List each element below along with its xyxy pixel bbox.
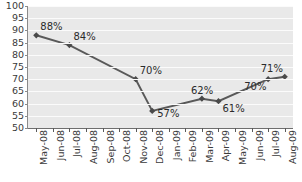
- y-axis-tick: [25, 104, 28, 105]
- y-tick-label: 85: [12, 38, 24, 48]
- x-tick-label: Mar-09: [205, 130, 215, 163]
- data-point-label: 88%: [40, 22, 62, 32]
- x-tick-label: Jan-09: [172, 130, 182, 160]
- data-point-marker: [199, 96, 205, 102]
- plot-area: 88%84%70%57%62%61%70%71%: [27, 6, 293, 129]
- gridline: [28, 79, 293, 80]
- gridline: [28, 30, 293, 31]
- x-tick-label: Jul-08: [72, 130, 82, 157]
- data-point-label: 61%: [222, 104, 244, 114]
- data-point-label: 62%: [191, 86, 213, 96]
- y-tick-label: 100: [6, 1, 24, 11]
- y-tick-label: 50: [12, 123, 24, 133]
- data-point-label: 57%: [157, 109, 179, 119]
- x-tick-label: Oct-08: [122, 130, 132, 162]
- x-tick-label: Nov-08: [139, 130, 149, 164]
- y-tick-label: 70: [12, 74, 24, 84]
- gridline: [28, 18, 293, 19]
- data-point-label: 84%: [73, 32, 95, 42]
- line-chart: 10095908580757065605550 88%84%70%57%62%6…: [0, 0, 302, 182]
- y-axis-tick: [25, 55, 28, 56]
- y-axis-tick: [25, 43, 28, 44]
- gridline: [28, 6, 293, 7]
- y-axis-tick: [25, 6, 28, 7]
- y-tick-label: 65: [12, 87, 24, 97]
- y-axis-tick: [25, 18, 28, 19]
- gridline: [28, 55, 293, 56]
- y-tick-label: 75: [12, 62, 24, 72]
- gridline: [28, 43, 293, 44]
- data-point-label: 70%: [140, 66, 162, 76]
- y-axis-tick: [25, 67, 28, 68]
- y-tick-label: 55: [12, 111, 24, 121]
- x-tick-label: Jun-09: [255, 130, 265, 160]
- x-tick-label: Aug-09: [288, 130, 298, 164]
- gridline: [28, 104, 293, 105]
- x-tick-label: Feb-09: [188, 130, 198, 162]
- x-tick-label: Aug-08: [89, 130, 99, 164]
- x-tick-label: Jun-08: [56, 130, 66, 160]
- x-tick-label: Apr-09: [221, 130, 231, 161]
- y-tick-label: 60: [12, 99, 24, 109]
- data-point-label: 70%: [244, 82, 266, 92]
- y-axis-labels: 10095908580757065605550: [0, 0, 24, 128]
- x-tick-label: Sep-08: [106, 130, 116, 163]
- y-axis-tick: [25, 91, 28, 92]
- x-tick-label: Jul-09: [271, 130, 281, 157]
- y-tick-label: 90: [12, 26, 24, 36]
- x-tick-label: Dec-08: [155, 130, 165, 164]
- y-axis-tick: [25, 116, 28, 117]
- data-point-marker: [33, 32, 39, 38]
- data-point-label: 71%: [261, 64, 283, 74]
- x-axis-labels: May-08Jun-08Jul-08Aug-08Sep-08Oct-08Nov-…: [27, 130, 292, 182]
- y-axis-tick: [25, 79, 28, 80]
- y-axis-tick: [25, 128, 28, 129]
- y-tick-label: 95: [12, 13, 24, 23]
- x-tick-label: May-09: [238, 130, 248, 165]
- x-tick-label: May-08: [39, 130, 49, 165]
- y-axis-tick: [25, 30, 28, 31]
- y-tick-label: 80: [12, 50, 24, 60]
